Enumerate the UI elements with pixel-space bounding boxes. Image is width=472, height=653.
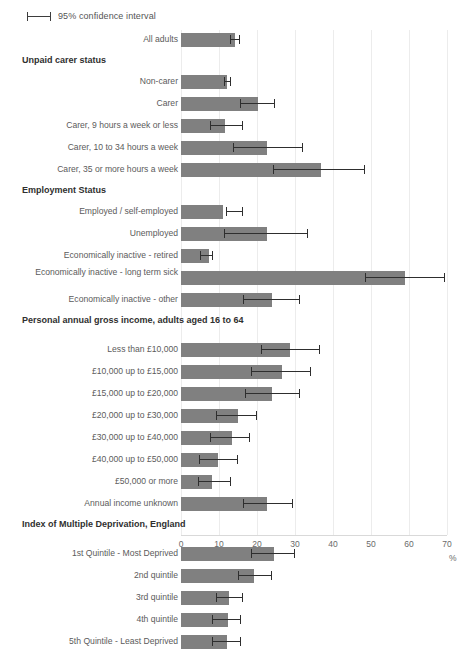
ci-cap-low (216, 593, 217, 602)
ci-cap-low (212, 637, 213, 646)
confidence-interval (251, 371, 311, 372)
ci-cap-low (210, 433, 211, 442)
chart-row[interactable]: £10,000 up to £15,000 (0, 362, 472, 384)
bar-zone (181, 362, 447, 384)
bar[interactable] (181, 569, 254, 583)
bar[interactable] (181, 271, 405, 285)
category-label: 5th Quintile - Least Deprived (6, 636, 178, 646)
bar[interactable] (181, 97, 258, 111)
chart-row[interactable]: Less than £10,000 (0, 340, 472, 362)
category-label: Annual income unknown (6, 498, 178, 508)
chart-row[interactable]: 3rd quintile (0, 588, 472, 610)
axis-title: % (449, 553, 457, 563)
category-label: Carer, 10 to 34 hours a week (6, 142, 178, 152)
bar-zone (181, 406, 447, 428)
chart-row[interactable]: Economically inactive - long term sick (0, 268, 472, 290)
plot-area: All adultsUnpaid carer statusNon-carerCa… (0, 30, 472, 535)
bar-zone (181, 610, 447, 632)
chart-row[interactable]: £20,000 up to £30,000 (0, 406, 472, 428)
category-label: All adults (6, 34, 178, 44)
ci-cap-high (212, 251, 213, 260)
axis-tick-label: 50 (366, 539, 375, 549)
chart-row[interactable]: £40,000 up to £50,000 (0, 450, 472, 472)
chart-row[interactable]: 2nd quintile (0, 566, 472, 588)
confidence-interval (226, 211, 243, 212)
chart-row[interactable]: Carer, 10 to 34 hours a week (0, 138, 472, 160)
category-label: 3rd quintile (6, 592, 178, 602)
ci-cap-low (224, 77, 225, 86)
category-label: Economically inactive - other (6, 294, 178, 304)
ci-cap-low (210, 121, 211, 130)
bar-zone (181, 160, 447, 182)
bar-zone (181, 450, 447, 472)
bar[interactable] (181, 475, 212, 489)
ci-cap-low (240, 99, 241, 108)
ci-cap-high (242, 593, 243, 602)
chart-row[interactable]: Non-carer (0, 72, 472, 94)
bar[interactable] (181, 293, 272, 307)
chart-row[interactable]: Carer (0, 94, 472, 116)
chart-row[interactable]: All adults (0, 30, 472, 52)
ci-cap-low (238, 571, 239, 580)
bar-zone (181, 246, 447, 268)
category-label: £50,000 or more (6, 476, 178, 486)
chart-row[interactable]: Unemployed (0, 224, 472, 246)
chart-row[interactable]: Economically inactive - other (0, 290, 472, 312)
chart-row[interactable]: Carer, 9 hours a week or less (0, 116, 472, 138)
category-label: 4th quintile (6, 614, 178, 624)
ci-cap-high (292, 499, 293, 508)
error-bar-icon (26, 11, 52, 22)
bar[interactable] (181, 365, 282, 379)
ci-cap-low (243, 295, 244, 304)
bar-zone (181, 428, 447, 450)
bar-zone (181, 116, 447, 138)
confidence-interval (210, 437, 250, 438)
category-label: £15,000 up to £20,000 (6, 388, 178, 398)
bar[interactable] (181, 205, 223, 219)
ci-cap-high (240, 637, 241, 646)
category-label: Carer, 9 hours a week or less (6, 120, 178, 130)
bar[interactable] (181, 635, 227, 649)
section-header-label: Index of Multiple Deprivation, England (22, 519, 186, 530)
confidence-interval (216, 415, 257, 416)
chart-row[interactable]: 5th Quintile - Least Deprived (0, 632, 472, 653)
confidence-interval (224, 81, 232, 82)
chart-row[interactable]: Economically inactive - retired (0, 246, 472, 268)
chart-row[interactable]: Annual income unknown (0, 494, 472, 516)
axis-tick-label: 0 (179, 539, 184, 549)
ci-cap-low (251, 367, 252, 376)
ci-cap-high (256, 411, 257, 420)
confidence-interval (245, 393, 300, 394)
confidence-interval (230, 39, 240, 40)
chart-row[interactable]: 4th quintile (0, 610, 472, 632)
bar[interactable] (181, 141, 267, 155)
ci-cap-high (249, 433, 250, 442)
bar[interactable] (181, 497, 267, 511)
bar[interactable] (181, 163, 321, 177)
bar[interactable] (181, 431, 232, 445)
category-label: 2nd quintile (6, 570, 178, 580)
chart-row[interactable]: Employed / self-employed (0, 202, 472, 224)
bar[interactable] (181, 75, 227, 89)
bar[interactable] (181, 409, 238, 423)
chart-row[interactable]: £30,000 up to £40,000 (0, 428, 472, 450)
chart-row[interactable]: £15,000 up to £20,000 (0, 384, 472, 406)
category-label: £40,000 up to £50,000 (6, 454, 178, 464)
bar[interactable] (181, 33, 235, 47)
bar[interactable] (181, 591, 229, 605)
ci-cap-low (233, 143, 234, 152)
axis-tick-label: 20 (252, 539, 261, 549)
bar-zone (181, 72, 447, 94)
bar[interactable] (181, 119, 225, 133)
ci-cap-low (365, 273, 366, 282)
confidence-interval (273, 169, 365, 170)
bar[interactable] (181, 387, 272, 401)
category-label: £30,000 up to £40,000 (6, 432, 178, 442)
axis-line (181, 535, 447, 536)
chart-row[interactable]: Carer, 35 or more hours a week (0, 160, 472, 182)
category-label: 1st Quintile - Most Deprived (6, 548, 178, 558)
bar[interactable] (181, 249, 209, 263)
chart-row[interactable]: £50,000 or more (0, 472, 472, 494)
bar[interactable] (181, 613, 228, 627)
bar[interactable] (181, 343, 290, 357)
